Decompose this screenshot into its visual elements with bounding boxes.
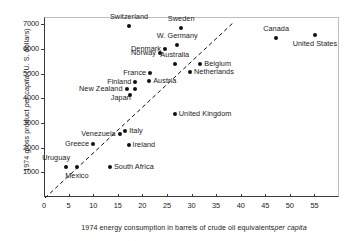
data-point-label: Sweden: [168, 15, 195, 23]
data-point: [125, 87, 129, 91]
y-tick-mark: [41, 148, 44, 149]
data-point: [173, 62, 177, 66]
data-point-label: United States: [293, 40, 337, 48]
data-point: [179, 26, 183, 30]
y-tick-label: 3000: [23, 118, 39, 127]
data-point: [75, 165, 79, 169]
data-point-label: Mexico: [65, 172, 88, 180]
data-point: [133, 87, 137, 91]
x-tick-label: 45: [255, 201, 275, 210]
x-tick-label: 55: [304, 201, 324, 210]
y-tick-label: 6000: [23, 44, 39, 53]
data-point-label: South Africa: [114, 163, 154, 171]
data-point-label: Ireland: [133, 141, 156, 149]
y-tick-mark: [41, 49, 44, 50]
x-tick-mark: [44, 194, 45, 197]
data-point-label: New Zealand: [79, 85, 123, 93]
data-point-label: Greece: [65, 140, 89, 148]
x-tick-label: 10: [83, 201, 103, 210]
data-point-label: United Kingdom: [179, 110, 232, 118]
x-tick-mark: [265, 194, 266, 197]
x-tick-mark: [167, 194, 168, 197]
x-tick-mark: [216, 194, 217, 197]
y-tick-label: 4000: [23, 93, 39, 102]
scatter-chart: 1974 gross product per capita (U. S. dol…: [0, 0, 364, 241]
x-tick-mark: [314, 194, 315, 197]
x-axis-title: 1974 energy consumption in barrels of cr…: [44, 224, 344, 232]
x-tick-label: 25: [157, 201, 177, 210]
x-axis-title-part-a: 1974 energy consumption in barrels of cr…: [81, 224, 274, 232]
y-tick-label: 5000: [23, 69, 39, 78]
data-point-label: Austria: [153, 77, 176, 85]
x-tick-label: 35: [206, 201, 226, 210]
x-tick-label: 30: [182, 201, 202, 210]
data-point-label: Switzerland: [110, 13, 148, 21]
x-tick-label: 15: [108, 201, 128, 210]
y-tick-mark: [41, 98, 44, 99]
x-tick-label: 0: [34, 201, 54, 210]
data-point-label: Australia: [160, 51, 189, 59]
y-axis-title-part-b: per capita: [23, 75, 31, 107]
data-point-label: Uruguay: [42, 154, 70, 162]
y-tick-mark: [41, 74, 44, 75]
data-point: [175, 43, 179, 47]
data-point: [313, 33, 317, 37]
data-point-label: Norway: [131, 49, 156, 57]
y-tick-label: 7000: [23, 19, 39, 28]
x-tick-mark: [118, 194, 119, 197]
data-point: [188, 70, 192, 74]
y-tick-label: 1000: [23, 167, 39, 176]
x-tick-mark: [192, 194, 193, 197]
data-point-label: W. Germany: [157, 32, 198, 40]
x-tick-label: 20: [132, 201, 152, 210]
data-point-label: Venezuela: [81, 130, 116, 138]
x-tick-mark: [290, 194, 291, 197]
x-tick-mark: [241, 194, 242, 197]
x-tick-label: 5: [59, 201, 79, 210]
x-tick-label: 50: [280, 201, 300, 210]
data-point: [127, 143, 131, 147]
x-axis-title-part-b: per capita: [275, 224, 307, 232]
x-tick-mark: [93, 194, 94, 197]
data-point: [173, 112, 177, 116]
x-tick-label: 40: [231, 201, 251, 210]
data-point-label: Netherlands: [194, 68, 234, 76]
x-tick-mark: [69, 194, 70, 197]
y-axis-title-part-a: 1974 gross product: [23, 107, 31, 172]
y-tick-label: 2000: [23, 143, 39, 152]
data-point: [128, 93, 132, 97]
data-point: [118, 132, 122, 136]
data-point-label: Italy: [129, 127, 143, 135]
data-point-label: Canada: [263, 25, 289, 33]
x-tick-mark: [142, 194, 143, 197]
y-tick-mark: [41, 24, 44, 25]
y-tick-mark: [41, 123, 44, 124]
data-point: [108, 165, 112, 169]
y-tick-mark: [41, 172, 44, 173]
